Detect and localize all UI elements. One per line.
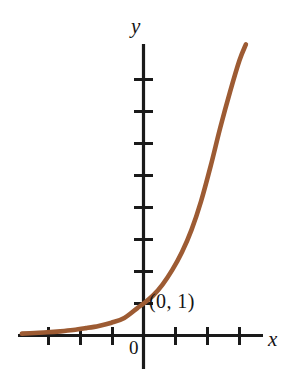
exponential-curve: [22, 44, 246, 333]
y-axis-label: y: [131, 16, 140, 37]
plot-canvas: [0, 0, 296, 380]
y-intercept-label: (0, 1): [149, 291, 195, 311]
x-axis-label: x: [268, 329, 277, 350]
exponential-graph-figure: y x (0, 1) 0: [0, 0, 296, 380]
origin-label: 0: [129, 338, 139, 357]
